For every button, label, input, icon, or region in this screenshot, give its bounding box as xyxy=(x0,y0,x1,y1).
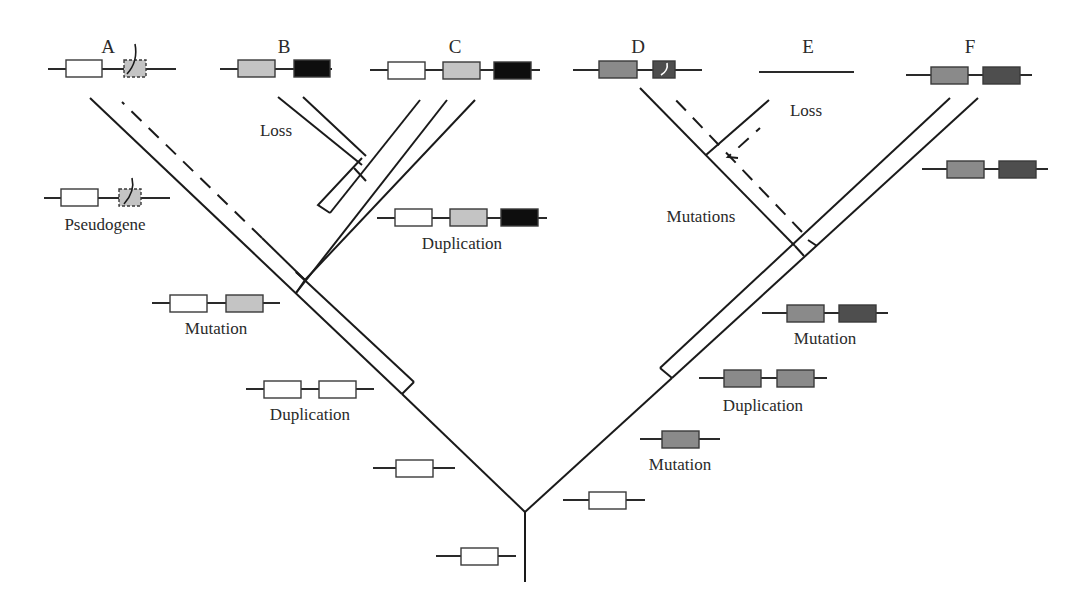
taxon-label-a: A xyxy=(101,36,115,57)
taxon-label-b: B xyxy=(278,36,291,57)
genome-d xyxy=(573,61,702,78)
event-mutation-right-upper: Mutation xyxy=(762,305,888,348)
pseudogene-light-gray xyxy=(124,60,146,77)
taxon-label-f: F xyxy=(965,36,976,57)
event-mutation-left: Mutation xyxy=(152,295,280,338)
event-duplication-lower-left: Duplication xyxy=(246,381,374,424)
svg-text:Mutation: Mutation xyxy=(649,455,712,474)
event-pseudogene: Pseudogene xyxy=(44,178,170,234)
taxon-label-d: D xyxy=(631,36,645,57)
label-pseudogene: Pseudogene xyxy=(64,215,145,234)
ancestral-genome-f xyxy=(922,161,1048,178)
svg-text:Mutation: Mutation xyxy=(185,319,248,338)
label-mutations-right: Mutations xyxy=(667,207,736,226)
event-duplication-right: Duplication xyxy=(699,370,827,415)
gene-white xyxy=(66,60,102,77)
gene-tree-diagram: A B C D E F xyxy=(0,0,1086,608)
ancestral-gene-root xyxy=(436,548,516,565)
genome-c xyxy=(370,62,540,79)
svg-text:Duplication: Duplication xyxy=(422,234,503,253)
taxon-label-e: E xyxy=(802,36,814,57)
ancestral-gene-right xyxy=(563,492,645,509)
svg-text:Duplication: Duplication xyxy=(723,396,804,415)
event-duplication-upper-left: Duplication xyxy=(377,209,547,253)
label-loss-left: Loss xyxy=(260,121,292,140)
genome-b xyxy=(220,60,332,77)
ancestral-gene-left xyxy=(373,460,455,477)
event-mutation-right-lower: Mutation xyxy=(640,431,720,474)
taxon-label-c: C xyxy=(449,36,462,57)
label-loss-right: Loss xyxy=(790,101,822,120)
svg-text:Duplication: Duplication xyxy=(270,405,351,424)
genome-f xyxy=(906,67,1032,84)
svg-text:Mutation: Mutation xyxy=(794,329,857,348)
